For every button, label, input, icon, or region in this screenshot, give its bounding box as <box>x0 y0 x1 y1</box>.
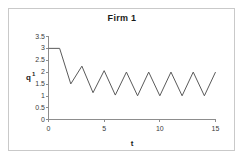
y-tick-label: 1.5 <box>35 80 45 87</box>
x-tick-label: 15 <box>212 125 220 132</box>
chart-figure: Firm 1 3.5 3 2.5 2 1.5 1 0.5 0 <box>0 0 244 160</box>
y-tick-label: 0 <box>41 116 45 123</box>
y-tick-label: 2 <box>41 68 45 75</box>
y-tick-label: 3.5 <box>35 33 45 40</box>
y-axis-label: q <box>26 73 31 82</box>
y-tick-label: 0.5 <box>35 104 45 111</box>
y-tick-label: 2.5 <box>35 56 45 63</box>
x-tick-label: 10 <box>156 125 164 132</box>
y-tick-label: 1 <box>41 92 45 99</box>
x-tick-label: 5 <box>102 125 106 132</box>
x-tick-label: 0 <box>47 125 51 132</box>
series-line-q1 <box>49 48 216 95</box>
x-axis-tick-labels: 0 5 10 15 <box>47 125 220 132</box>
x-axis-label: t <box>131 139 134 148</box>
y-axis-label-superscript: 1 <box>32 71 36 77</box>
y-tick-label: 3 <box>41 44 45 51</box>
y-axis-tick-labels: 3.5 3 2.5 2 1.5 1 0.5 0 <box>35 33 45 123</box>
plot-area: 3.5 3 2.5 2 1.5 1 0.5 0 <box>0 0 244 160</box>
